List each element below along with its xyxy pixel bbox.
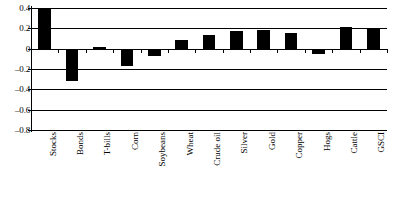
x-axis-tick — [277, 49, 278, 53]
plot-area — [31, 8, 387, 130]
x-axis-category-label-text: Gold — [268, 132, 277, 150]
x-axis-category-label: T-bills — [103, 132, 112, 155]
x-axis-category-label: Soybeans — [158, 132, 167, 167]
bar — [66, 49, 79, 82]
x-axis-category-label-text: Bonds — [76, 132, 85, 155]
x-axis-tick — [195, 49, 196, 53]
x-axis-tick — [58, 49, 59, 53]
x-axis-tick — [168, 49, 169, 53]
y-axis-tick-label: 0 — [0, 44, 30, 53]
x-axis-category-label-text: Wheat — [186, 132, 195, 155]
x-axis-tick — [223, 49, 224, 53]
x-axis-category-label: Crude oil — [213, 132, 222, 166]
x-axis-category-label: Cattle — [350, 132, 359, 154]
x-axis-tick — [86, 49, 87, 53]
y-axis-tick-label: –0.8 — [0, 126, 30, 135]
x-axis-category-label-text: Hogs — [323, 132, 332, 151]
x-axis-category-label: GSCI — [377, 132, 386, 153]
bar-series — [31, 8, 387, 130]
x-axis-category-label-text: Crude oil — [213, 132, 222, 166]
bar — [38, 8, 51, 49]
x-axis-category-label-text: Corn — [131, 132, 140, 150]
x-axis-category-labels: StocksBondsT-billsCornSoybeansWheatCrude… — [31, 132, 387, 198]
bar — [285, 33, 298, 48]
y-axis-tick — [28, 130, 31, 131]
gridline — [31, 130, 387, 131]
x-axis-category-label: Corn — [131, 132, 140, 150]
y-axis-tick-label: –0.6 — [0, 105, 30, 114]
x-axis-category-label: Stocks — [49, 132, 58, 156]
bar — [121, 49, 134, 66]
y-axis-tick-label: 0.4 — [0, 4, 30, 13]
y-axis-tick-labels: 0.40.20–0.2–0.4–0.6–0.8 — [0, 8, 30, 130]
x-axis-tick — [387, 49, 388, 53]
x-axis-category-label: Gold — [268, 132, 277, 150]
x-axis-tick — [305, 49, 306, 53]
x-axis-tick — [250, 49, 251, 53]
bar — [230, 31, 243, 48]
bar-chart: 0.40.20–0.2–0.4–0.6–0.8 StocksBondsT-bil… — [0, 0, 394, 198]
bar — [203, 35, 216, 48]
y-axis-tick-label: –0.2 — [0, 65, 30, 74]
bar — [175, 40, 188, 49]
bar — [312, 49, 325, 54]
x-axis-tick — [360, 49, 361, 53]
x-axis-category-label: Copper — [295, 132, 304, 159]
bar — [340, 27, 353, 48]
x-axis-category-label: Hogs — [323, 132, 332, 151]
y-axis-tick-label: 0.2 — [0, 24, 30, 33]
x-axis-category-label-text: Silver — [240, 132, 249, 154]
x-axis-category-label-text: Copper — [295, 132, 304, 159]
bar — [148, 49, 161, 56]
bar — [93, 47, 106, 49]
bar — [367, 29, 380, 48]
y-axis-tick-label: –0.4 — [0, 85, 30, 94]
x-axis-category-label-text: GSCI — [377, 132, 386, 153]
x-axis-category-label-text: Soybeans — [158, 132, 167, 167]
bar — [257, 30, 270, 48]
x-axis-category-label-text: Cattle — [350, 132, 359, 154]
x-axis-category-label: Silver — [240, 132, 249, 154]
x-axis-category-label: Bonds — [76, 132, 85, 155]
x-axis-category-label: Wheat — [186, 132, 195, 155]
x-axis-tick — [332, 49, 333, 53]
x-axis-category-label-text: T-bills — [103, 132, 112, 155]
x-axis-tick — [113, 49, 114, 53]
x-axis-tick — [141, 49, 142, 53]
x-axis-category-label-text: Stocks — [49, 132, 58, 156]
